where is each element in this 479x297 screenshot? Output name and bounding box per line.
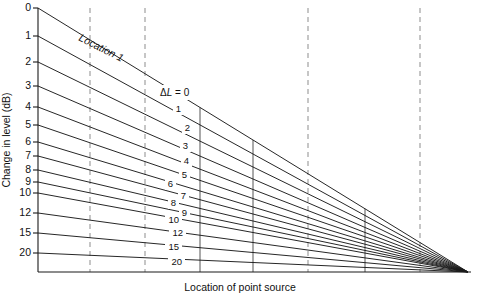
curve-inline-label: 1 <box>176 103 181 114</box>
curve-inline-label: 9 <box>182 207 187 218</box>
curve-inline-label: 5 <box>182 169 187 180</box>
curve-inline-label: 8 <box>171 197 176 208</box>
x-axis-title: Location of point source <box>184 281 296 293</box>
y-tick-label: 12 <box>19 206 31 218</box>
y-tick-label: 6 <box>25 135 31 147</box>
curve-inline-label: 3 <box>183 140 188 151</box>
annotation-location-1: Location 1 <box>77 31 126 64</box>
chart-canvas: 012345678910121520 12345678910121520 Loc… <box>0 0 479 297</box>
curve-inline-label: 6 <box>168 178 173 189</box>
y-tick-label: 15 <box>19 226 31 238</box>
delta-l-label: ΔL = 0 <box>160 87 190 98</box>
curve-inline-label: 10 <box>168 214 179 225</box>
y-tick-label: 2 <box>25 55 31 67</box>
y-tick-label: 4 <box>25 100 31 112</box>
curve-inline-label: 4 <box>184 155 189 166</box>
curve-inline-label: 15 <box>168 241 179 252</box>
annotation-delta-l: ΔL = 0 <box>157 85 203 100</box>
curve-value-labels: 12345678910121520 <box>165 103 193 268</box>
y-axis-ticks: 012345678910121520 <box>19 1 38 258</box>
curve-inline-label: 7 <box>181 190 186 201</box>
y-tick-label: 1 <box>25 29 31 41</box>
curve-inline-label: 12 <box>172 227 183 238</box>
y-tick-label: 3 <box>25 79 31 91</box>
y-axis-title: Change in level (dB) <box>0 92 12 187</box>
y-tick-label: 20 <box>19 246 31 258</box>
y-tick-label: 0 <box>25 1 31 13</box>
curve-inline-label: 20 <box>171 256 182 267</box>
delta-l-value: = 0 <box>172 87 189 98</box>
curve-inline-label: 2 <box>185 122 190 133</box>
y-tick-label: 7 <box>25 149 31 161</box>
y-tick-label: 10 <box>19 186 31 198</box>
location-1-label: Location 1 <box>77 31 126 64</box>
y-tick-label: 8 <box>25 163 31 175</box>
figure-container: 012345678910121520 12345678910121520 Loc… <box>0 0 479 297</box>
y-tick-label: 5 <box>25 118 31 130</box>
